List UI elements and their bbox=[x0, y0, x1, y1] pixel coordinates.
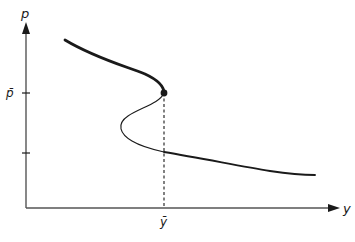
y-bar-label: ȳ bbox=[159, 215, 168, 229]
p-bar-label: p̄ bbox=[5, 86, 14, 100]
vertical-axis-arrow-icon bbox=[22, 22, 30, 34]
middle-branch-curve bbox=[121, 93, 164, 152]
horizontal-axis-label: y bbox=[342, 201, 351, 216]
diagram-figure: p y p̄ ȳ bbox=[0, 0, 355, 242]
axes bbox=[22, 22, 340, 212]
critical-point-marker bbox=[161, 90, 168, 97]
upper-branch-curve bbox=[65, 40, 164, 93]
lower-branch-curve bbox=[164, 152, 315, 175]
horizontal-axis-arrow-icon bbox=[328, 204, 340, 212]
vertical-axis-label: p bbox=[20, 6, 29, 21]
